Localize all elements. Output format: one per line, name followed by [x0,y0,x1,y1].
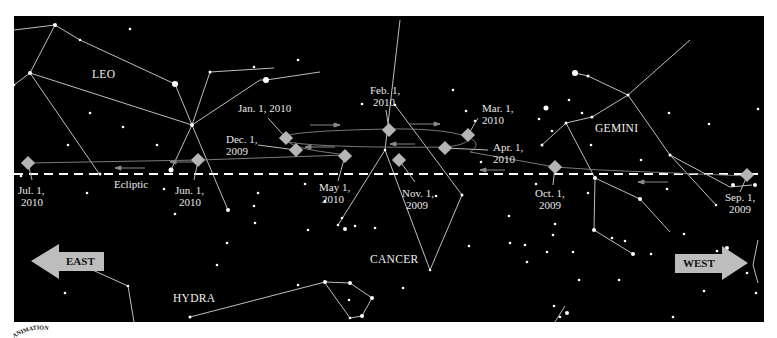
date-apr-2010: Apr. 1,2010 [493,141,524,165]
marker-nov-2009 [392,153,406,167]
svg-text:WEST: WEST [683,257,715,269]
date-nov-2009: Nov. 1,2009 [402,187,434,211]
logo: ANIMATION [10,322,70,338]
date-jun-2010: Jun. 1,2010 [175,184,204,208]
marker-may-2010 [338,149,352,163]
label-hydra: HYDRA [173,292,216,304]
date-labels: Sep. 1,2009 Oct. 1,2009 Nov. 1,2009 Dec.… [18,84,756,215]
star-chart: LEO GEMINI CANCER HYDRA Ecliptic Sep. 1,… [14,16,764,322]
svg-text:EAST: EAST [66,255,95,267]
date-sep-2009: Sep. 1,2009 [725,191,756,215]
date-mar-2010: Mar. 1,2010 [482,102,514,126]
marker-jul-2010 [21,156,35,170]
constellation-lines [14,20,758,322]
label-ecliptic: Ecliptic [114,178,148,190]
marker-jun-2010 [191,153,205,167]
marker-dec-2009 [289,143,303,157]
date-dec-2009: Dec. 1,2009 [226,133,258,157]
label-leo: LEO [92,68,115,80]
label-cancer: CANCER [370,253,418,265]
marker-oct-2009 [548,160,562,174]
marker-apr-2010 [438,141,452,155]
date-jul-2010: Jul. 1,2010 [18,184,45,208]
date-jan-2010: Jan. 1, 2010 [238,102,292,114]
marker-feb-2010 [382,123,396,137]
svg-text:ANIMATION: ANIMATION [11,324,49,338]
sky-map: LEO GEMINI CANCER HYDRA Ecliptic Sep. 1,… [14,16,764,322]
marker-sep-2009 [740,168,754,182]
date-oct-2009: Oct. 1,2009 [535,187,565,211]
date-may-2010: May 1,2010 [319,181,350,205]
west-arrow: WEST [675,246,748,280]
label-gemini: GEMINI [595,122,638,134]
stars [14,23,759,319]
east-arrow: EAST [31,244,104,279]
